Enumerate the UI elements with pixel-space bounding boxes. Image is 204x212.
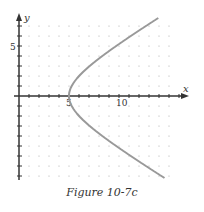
dot-grid: [28, 25, 169, 176]
plot-area: x y 5 10 5: [0, 0, 204, 186]
y-axis-label: y: [23, 12, 30, 23]
y-tick-label-5: 5: [10, 42, 16, 52]
x-axis-label: x: [183, 83, 189, 94]
x-tick-label-10: 10: [116, 98, 128, 108]
x-axis: [14, 93, 189, 99]
figure-caption: Figure 10-7c: [0, 186, 204, 199]
